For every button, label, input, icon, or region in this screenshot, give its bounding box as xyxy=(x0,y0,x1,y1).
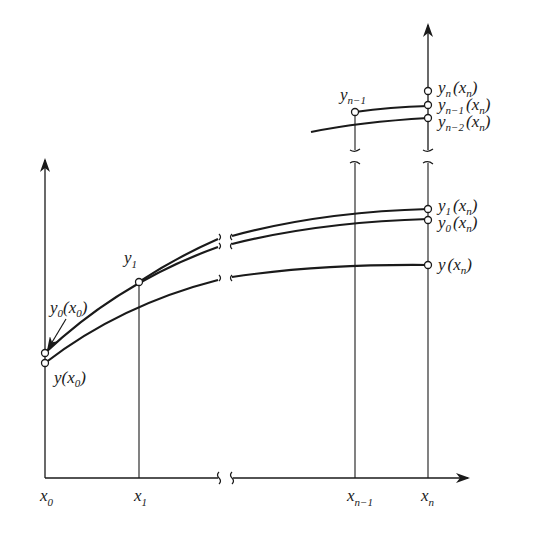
curve-yn-2 xyxy=(311,118,428,132)
curve-y-exact-right xyxy=(232,265,428,277)
point-y-x0 xyxy=(42,360,49,367)
label-y-xn: y(xn) xyxy=(436,255,472,276)
label-yn-1-point: yn−1 xyxy=(338,85,366,106)
x-axis-break-mark xyxy=(218,472,234,484)
point-y0-x0 xyxy=(42,350,49,357)
tick-label-x0: x0 xyxy=(39,486,54,508)
label-y0-x0: y0(x0) xyxy=(48,298,88,319)
tick-label-x1: x1 xyxy=(133,486,147,508)
point-yn-1-xn xyxy=(425,102,432,109)
iteration-diagram: x0 x1 xn−1 xn y0(x0) y(x0) y1 yn−1 yn(xn… xyxy=(0,0,538,538)
curve-yn-1 xyxy=(355,106,428,112)
point-y-xn xyxy=(425,262,432,269)
curve-y0-right xyxy=(232,219,428,244)
point-yn-2-xn xyxy=(425,115,432,122)
point-y1 xyxy=(136,279,143,286)
curve-y1-right xyxy=(232,209,428,236)
point-y1-xn xyxy=(425,206,432,213)
pointer-arrow xyxy=(48,319,66,349)
vertical-break-marks xyxy=(350,149,433,164)
label-y1-point: y1 xyxy=(122,248,137,270)
point-yn-xn xyxy=(425,88,432,95)
label-y-x0: y(x0) xyxy=(52,368,86,389)
point-yn-1 xyxy=(352,109,359,116)
tick-label-xn: xn xyxy=(420,486,435,508)
tick-label-xn-1: xn−1 xyxy=(346,486,373,508)
point-y0-xn xyxy=(425,217,432,224)
label-y0-xn: y0(xn) xyxy=(436,213,478,234)
curve-y-exact-left xyxy=(45,280,218,363)
curve-y1-left xyxy=(139,239,218,282)
curve-break-marks xyxy=(219,234,232,281)
